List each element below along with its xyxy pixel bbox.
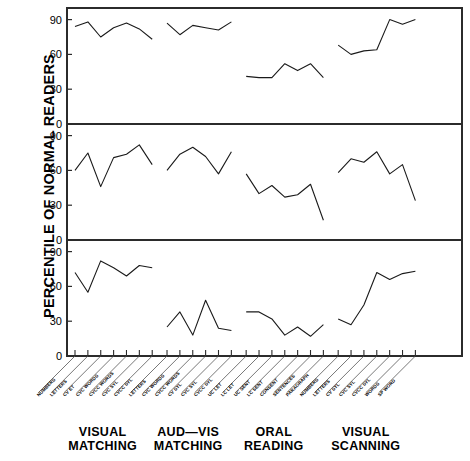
y-tick-label: 0 [36, 118, 62, 130]
series-line-visual-scanning-panel3 [338, 271, 415, 324]
y-tick-label: 0 [36, 350, 62, 362]
y-tick-label: 90 [36, 14, 62, 26]
y-tick-label: 30 [36, 315, 62, 327]
panel-frame-2 [67, 124, 462, 240]
group-title-line2: SCANNING [311, 439, 421, 453]
chart-figure: PERCENTILE OF NORMAL READERS 03060900306… [0, 0, 470, 461]
y-tick-label: 90 [36, 246, 62, 258]
y-tick-label: 30 [36, 199, 62, 211]
series-line-oral-reading-panel2 [246, 174, 323, 220]
group-title-visual-scanning: VISUALSCANNING [311, 425, 421, 453]
y-tick-label: 90 [36, 130, 62, 142]
series-line-visual-matching-panel3 [75, 261, 152, 292]
series-line-aud-vis-matching-panel1 [167, 22, 231, 35]
data-lines [75, 20, 415, 337]
series-line-oral-reading-panel3 [246, 312, 323, 336]
series-line-visual-matching-panel1 [75, 22, 152, 39]
group-title-line1: VISUAL [311, 425, 421, 439]
y-tick-label: 0 [36, 234, 62, 246]
series-line-visual-scanning-panel2 [338, 152, 415, 201]
panel-frames [67, 8, 462, 356]
y-tick-label: 30 [36, 83, 62, 95]
series-line-visual-scanning-panel1 [338, 20, 415, 55]
series-line-visual-matching-panel2 [75, 145, 152, 187]
series-line-aud-vis-matching-panel2 [167, 147, 231, 174]
y-tick-label: 60 [36, 48, 62, 60]
panel-frame-3 [67, 240, 462, 356]
y-tick-label: 60 [36, 280, 62, 292]
series-line-oral-reading-panel1 [246, 64, 323, 78]
y-tick-label: 60 [36, 164, 62, 176]
series-line-aud-vis-matching-panel3 [167, 300, 231, 335]
panel-frame-1 [67, 8, 462, 124]
